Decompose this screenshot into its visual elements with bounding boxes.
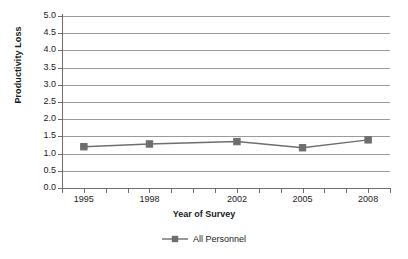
y-axis-tick-label: 5.0 [26, 11, 56, 20]
y-axis-tick-label: 2.0 [26, 114, 56, 123]
x-axis-tick-mark [237, 188, 238, 193]
plot-area [62, 16, 390, 188]
y-axis-tick-label: 0.5 [26, 166, 56, 175]
x-axis-tick-label: 1995 [62, 194, 106, 204]
legend-entry-all-personnel: All Personnel [162, 234, 246, 244]
x-axis-tick-mark [171, 188, 172, 193]
y-axis-tick-label: 3.5 [26, 63, 56, 72]
data-point-marker [234, 138, 240, 144]
chart-figure: Productivity Loss 0.00.51.01.52.02.53.03… [0, 0, 408, 259]
x-axis-tick-mark [193, 188, 194, 193]
x-axis-tick-mark [84, 188, 85, 193]
data-point-marker [81, 144, 87, 150]
x-axis-tick-label: 2008 [346, 194, 390, 204]
legend-marker-icon [162, 234, 188, 244]
legend-label: All Personnel [193, 234, 246, 244]
y-axis-tick-label: 1.0 [26, 149, 56, 158]
y-axis-tick-labels: 0.00.51.01.52.02.53.03.54.04.55.0 [26, 16, 56, 188]
x-axis-ticks [62, 188, 390, 193]
x-axis-tick-mark [259, 188, 260, 193]
x-axis-tick-mark [62, 188, 63, 193]
x-axis-tick-mark [368, 188, 369, 193]
x-axis-tick-mark [281, 188, 282, 193]
data-point-marker [365, 137, 371, 143]
series-all-personnel [62, 16, 390, 188]
series-line [84, 140, 368, 148]
y-axis-title: Productivity Loss [13, 5, 23, 125]
x-axis-tick-label: 1998 [127, 194, 171, 204]
x-axis-tick-mark [215, 188, 216, 193]
x-axis-tick-mark [106, 188, 107, 193]
x-axis-tick-mark [128, 188, 129, 193]
chart-legend: All Personnel [0, 234, 408, 244]
x-axis-title: Year of Survey [0, 209, 408, 219]
data-point-marker [146, 141, 152, 147]
x-axis-tick-labels: 19951998200220052008 [0, 194, 408, 206]
data-point-marker [299, 145, 305, 151]
y-axis-tick-label: 4.5 [26, 28, 56, 37]
x-axis-tick-label: 2002 [215, 194, 259, 204]
y-axis-tick-label: 0.0 [26, 183, 56, 192]
y-axis-tick-label: 4.0 [26, 45, 56, 54]
y-axis-tick-label: 2.5 [26, 97, 56, 106]
y-axis-tick-label: 1.5 [26, 131, 56, 140]
x-axis-tick-mark [303, 188, 304, 193]
x-axis-tick-label: 2005 [281, 194, 325, 204]
x-axis-tick-mark [324, 188, 325, 193]
x-axis-tick-mark [346, 188, 347, 193]
x-axis-tick-mark [149, 188, 150, 193]
y-axis-tick-label: 3.0 [26, 80, 56, 89]
x-axis-tick-mark [390, 188, 391, 193]
